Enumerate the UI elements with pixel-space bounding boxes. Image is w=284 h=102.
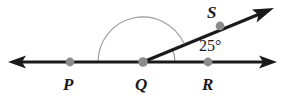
point-marker-q (138, 57, 148, 67)
point-marker-p (66, 58, 75, 67)
label-point-q: Q (135, 76, 147, 93)
point-marker-r (204, 58, 213, 67)
point-marker-s (216, 22, 225, 31)
label-point-r: R (202, 76, 213, 93)
geometry-figure: P Q R S 25° (0, 0, 284, 102)
label-point-s: S (207, 4, 216, 21)
label-point-p: P (63, 76, 73, 93)
label-angle-measure: 25° (199, 38, 221, 54)
angle-arc-pqs (98, 17, 184, 62)
